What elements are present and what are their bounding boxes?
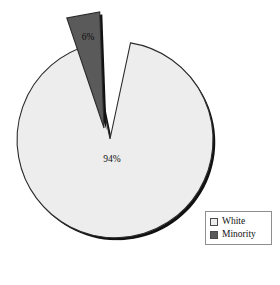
pie-slice-white: 94% — [17, 43, 215, 240]
chart-legend: White Minority — [205, 211, 272, 245]
pie-slice-minority-label: 6% — [82, 32, 95, 42]
pie-slice-white-label: 94% — [103, 154, 121, 164]
pie-slice-white-body — [17, 43, 213, 238]
pie-chart-figure: 94% 6% White Minority — [0, 0, 280, 285]
legend-item-minority[interactable]: Minority — [210, 228, 267, 241]
legend-swatch-white — [210, 218, 218, 226]
legend-label-minority: Minority — [222, 228, 256, 241]
legend-item-white[interactable]: White — [210, 215, 267, 228]
legend-label-white: White — [222, 215, 245, 228]
legend-swatch-minority — [210, 231, 218, 239]
